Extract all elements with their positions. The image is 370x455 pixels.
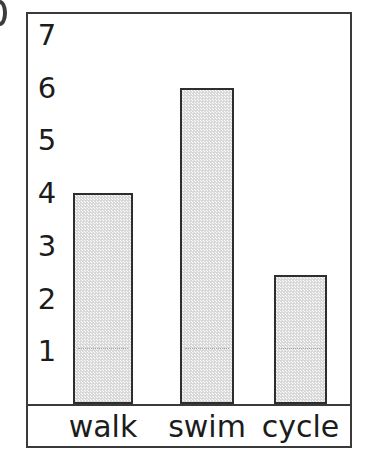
y-axis-tick-4: 4 [32, 179, 62, 208]
bar-walk [73, 193, 133, 404]
y-axis-tick-5: 5 [32, 126, 62, 155]
gridline-1 [185, 348, 229, 349]
plot-area: 1234567 [28, 14, 350, 404]
y-axis-tick-6: 6 [32, 73, 62, 102]
x-axis-label-cycle: cycle [256, 412, 345, 442]
gridline-1 [279, 348, 322, 349]
y-axis-tick-3: 3 [32, 231, 62, 260]
x-axis-label-swim: swim [162, 412, 252, 442]
bar-swim [180, 88, 234, 404]
y-axis-tick-1: 1 [32, 337, 62, 366]
bar-cycle [274, 275, 327, 404]
scan-artifact-glyph [0, 0, 7, 26]
y-axis-tick-2: 2 [32, 284, 62, 313]
gridline-1 [78, 348, 128, 349]
x-axis-label-walk: walk [55, 412, 151, 442]
x-axis-category-band: walkswimcycle [28, 406, 350, 446]
y-axis-tick-7: 7 [32, 21, 62, 50]
bar-chart-figure: 1234567 walkswimcycle [26, 12, 352, 448]
